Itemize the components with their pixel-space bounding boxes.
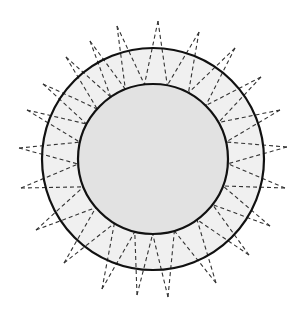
diagram-canvas bbox=[0, 0, 302, 313]
inner-circle bbox=[78, 84, 228, 234]
concentric-circle-diagram bbox=[0, 0, 302, 313]
